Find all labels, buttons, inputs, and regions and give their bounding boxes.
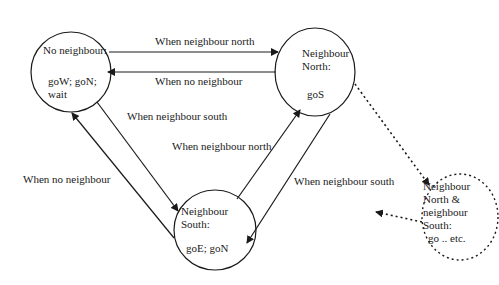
- transition-label-north-to-none: When no neighbour: [155, 75, 242, 88]
- state-both-title-4: South:: [423, 219, 452, 232]
- state-north-actions: goS: [307, 88, 324, 101]
- transition-label-none-to-south: When neighbour south: [127, 110, 227, 123]
- transition-label-north-to-south: When neighbour south: [294, 175, 394, 188]
- transition-label-south-to-none: When no neighbour: [23, 173, 110, 186]
- state-south-title-1: Neighbour: [181, 205, 228, 218]
- state-south-title-2: South:: [181, 218, 210, 231]
- state-south-actions: goE; goN: [186, 242, 228, 255]
- state-both-title-3: neighbour: [423, 206, 468, 219]
- state-no-neighbour-actions-1: goW; goN;: [48, 75, 97, 88]
- arrow-north-to-both: [355, 84, 429, 185]
- state-both-title-2: North &: [423, 193, 460, 206]
- arrow-both-outward: [376, 212, 422, 222]
- transition-label-south-to-north: When neighbour north: [172, 140, 272, 153]
- transition-label-none-to-north: When neighbour north: [155, 35, 255, 48]
- state-no-neighbour-title: No neighbour:: [43, 44, 107, 57]
- state-both-title-1: Neighbour: [423, 180, 470, 193]
- arrow-south-to-north: [237, 110, 300, 199]
- state-north-title-1: Neighbour: [302, 47, 349, 60]
- state-diagram: No neighbour: goW; goN; wait Neighbour N…: [0, 0, 499, 285]
- state-north-title-2: North:: [302, 60, 331, 73]
- state-both-actions: go .. etc.: [428, 232, 466, 245]
- state-no-neighbour-actions-2: wait: [48, 88, 67, 101]
